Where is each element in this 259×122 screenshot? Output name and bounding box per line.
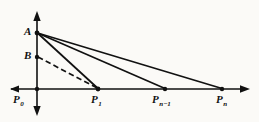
point-b-dot [35,55,39,59]
point-label-p0: P0 [13,94,23,105]
y-axis-top-arrowhead [33,11,40,21]
point-label-pn-subscript: n [223,100,227,108]
point-a-dot [35,31,40,36]
point-label-pn-1-text: P [152,93,159,105]
point-label-p1: P1 [91,94,101,105]
point-label-b: B [24,50,31,61]
segment-a-pn-1 [38,33,166,89]
x-axis-right-arrowhead [240,85,250,93]
y-axis-bottom-arrowhead [33,106,40,116]
point-label-p1-subscript: 1 [98,100,102,108]
point-label-p0-subscript: 0 [20,100,24,108]
geometry-figure: A B P0 P1 Pn−1 Pn [0,0,259,122]
point-pn-1-dot [163,87,167,91]
rays-from-a [38,33,223,89]
point-label-pn-1-subscript: n−1 [159,100,171,108]
point-pn-dot [220,87,224,91]
point-label-b-text: B [24,49,31,61]
point-label-p1-text: P [91,93,98,105]
point-label-p0-text: P [13,93,20,105]
point-p0-dot [35,87,39,91]
point-label-pn: Pn [216,94,227,105]
point-label-a: A [24,26,31,37]
x-axis-left-arrowhead [10,85,19,92]
segment-a-pn [38,33,223,89]
point-label-pn-text: P [216,93,223,105]
point-p1-dot [96,87,101,92]
point-label-a-text: A [24,25,31,37]
point-label-pn-1: Pn−1 [152,94,170,105]
vertical-axis [33,11,40,116]
